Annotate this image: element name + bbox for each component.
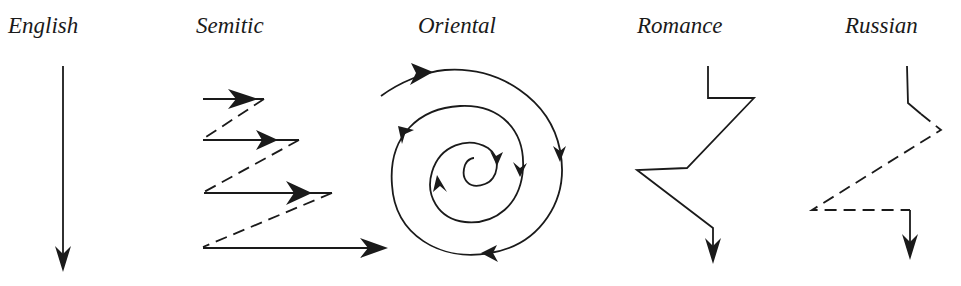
rhetorical-patterns-diagram: English Semitic Oriental Romance Russian <box>0 0 961 286</box>
oriental-spiral-icon <box>381 63 566 262</box>
english-arrow-icon <box>55 66 71 272</box>
russian-path-icon <box>812 66 941 260</box>
diagram-canvas <box>0 0 961 286</box>
semitic-zigzag-icon <box>203 89 388 258</box>
romance-path-icon <box>637 66 754 264</box>
